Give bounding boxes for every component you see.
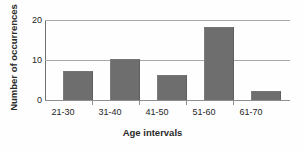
- x-tick-label-61-70: 61-70: [224, 107, 278, 117]
- bar-41-50: [157, 75, 187, 100]
- plot-area: [45, 20, 290, 101]
- bar-61-70: [251, 91, 281, 100]
- x-tick-mark-1: [92, 101, 93, 105]
- bar-column-51-60: [204, 20, 234, 100]
- y-tick-label-0: 0: [20, 95, 42, 105]
- x-tick-label-51-60: 51-60: [177, 107, 231, 117]
- x-tick-mark-4: [233, 101, 234, 105]
- bar-column-31-40: [110, 20, 140, 100]
- x-tick-label-21-30: 21-30: [36, 107, 90, 117]
- x-tick-mark-2: [139, 101, 140, 105]
- x-axis-title: Age intervals: [0, 127, 305, 138]
- x-tick-label-31-40: 31-40: [83, 107, 137, 117]
- bar-column-21-30: [63, 20, 93, 100]
- x-axis-baseline: [45, 100, 290, 101]
- bar-column-61-70: [251, 20, 281, 100]
- x-tick-mark-3: [186, 101, 187, 105]
- y-tick-label-20: 20: [20, 15, 42, 25]
- y-axis-tick-labels: 20 10 0: [16, 20, 42, 101]
- bar-column-41-50: [157, 20, 187, 100]
- bar-31-40: [110, 59, 140, 100]
- bar-chart-figure: Number of occurrences 20 10 0 21-30 31-4…: [0, 0, 305, 152]
- bar-51-60: [204, 27, 234, 100]
- y-tick-label-10: 10: [20, 55, 42, 65]
- x-tick-label-41-50: 41-50: [130, 107, 184, 117]
- bar-21-30: [63, 71, 93, 100]
